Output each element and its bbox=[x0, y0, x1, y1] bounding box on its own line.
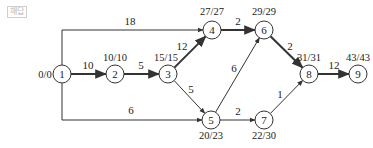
edge-weight-label: 5 bbox=[188, 83, 194, 95]
node-times-label: 10/10 bbox=[103, 52, 127, 63]
node-4: 427/27 bbox=[200, 6, 224, 39]
node-label: 9 bbox=[355, 68, 361, 80]
node-times-label: 27/27 bbox=[200, 6, 224, 17]
edge-weight-label: 2 bbox=[235, 15, 241, 27]
node-times-label: 15/15 bbox=[154, 52, 178, 63]
edge-weight-label: 1 bbox=[277, 88, 283, 100]
node-label: 3 bbox=[165, 68, 171, 80]
node-2: 210/10 bbox=[103, 52, 127, 83]
node-5: 520/23 bbox=[199, 111, 223, 141]
edge-weight-label: 2 bbox=[287, 40, 293, 52]
node-times-label: 20/23 bbox=[199, 130, 223, 141]
edge-weight-label: 6 bbox=[128, 104, 134, 116]
node-times-label: 31/31 bbox=[297, 52, 321, 63]
edge-weight-label: 5 bbox=[138, 59, 144, 71]
node-label: 5 bbox=[208, 114, 214, 126]
edge-weight-label: 12 bbox=[177, 40, 188, 52]
edge-weight-label: 12 bbox=[329, 59, 340, 71]
edge-7-8 bbox=[270, 80, 302, 113]
node-label: 4 bbox=[209, 24, 215, 36]
node-times-label: 22/30 bbox=[252, 130, 276, 141]
node-label: 7 bbox=[261, 114, 267, 126]
edge-weight-label: 10 bbox=[83, 59, 95, 71]
edge-weight-label: 2 bbox=[235, 105, 241, 117]
network-diagram: 1051218562622112 10/0210/10315/15427/275… bbox=[0, 0, 373, 148]
edge-5-6 bbox=[216, 38, 260, 112]
node-times-label: 43/43 bbox=[346, 52, 370, 63]
node-times-label: 29/29 bbox=[252, 6, 276, 17]
node-label: 2 bbox=[112, 68, 118, 80]
edge-weight-label: 6 bbox=[231, 62, 237, 74]
node-1: 10/0 bbox=[38, 65, 71, 83]
node-8: 831/31 bbox=[297, 52, 321, 83]
node-label: 6 bbox=[261, 24, 267, 36]
node-label: 1 bbox=[59, 68, 65, 80]
node-3: 315/15 bbox=[154, 52, 178, 83]
node-times-label: 0/0 bbox=[38, 69, 51, 80]
node-7: 722/30 bbox=[252, 111, 276, 141]
node-9: 943/43 bbox=[346, 52, 370, 83]
edge-weight-label: 18 bbox=[125, 15, 137, 27]
node-label: 8 bbox=[306, 68, 312, 80]
node-6: 629/29 bbox=[252, 6, 276, 39]
